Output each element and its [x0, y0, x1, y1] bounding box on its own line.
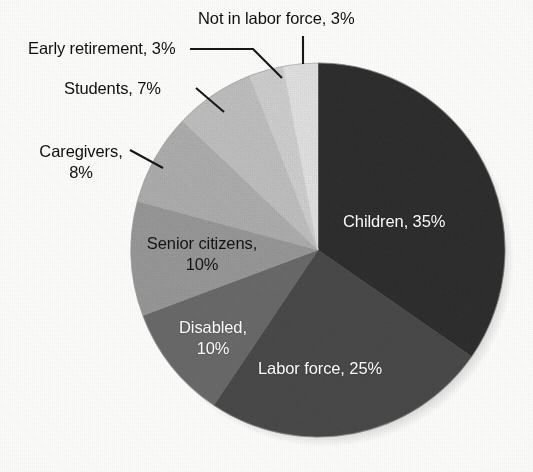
- pie-graphic: [0, 0, 533, 472]
- pie-slice-group: [131, 63, 505, 437]
- pie-chart: Not in labor force, 3% Early retirement,…: [0, 0, 533, 472]
- pie-svg: [0, 0, 533, 472]
